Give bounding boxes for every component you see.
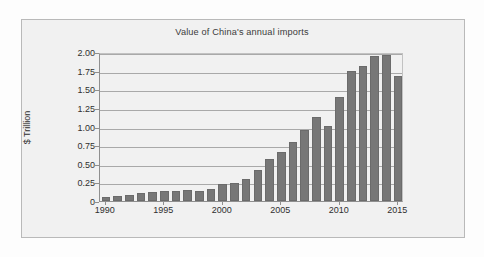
bar-slot [112,52,124,201]
bar-series [100,54,402,201]
bar-slot [264,52,276,201]
bar [242,179,251,201]
bar [324,126,333,201]
chart-figure: Value of China's annual imports $ Trilli… [0,0,484,257]
bar [125,195,134,201]
x-axis-tick-mark [339,201,340,205]
x-axis-tick-label: 2000 [202,205,242,215]
bar [370,56,379,201]
bar [207,189,216,201]
bar-slot [275,52,287,201]
bar-slot [357,52,369,201]
x-axis-tick-label: 2015 [377,205,417,215]
bar-slot [334,52,346,201]
x-axis-tick-mark [105,201,106,205]
bar [113,196,122,201]
bar-slot [229,52,241,201]
x-axis-tick-mark [280,201,281,205]
bar-slot [123,52,135,201]
bar-slot [322,52,334,201]
bar [359,66,368,201]
x-axis-tick-mark [222,201,223,205]
bar [195,191,204,201]
bar-slot [392,52,404,201]
bar [218,184,227,201]
bar-slot [369,52,381,201]
plot-area [99,53,403,202]
bar-slot [205,52,217,201]
bar-slot [182,52,194,201]
bar-slot [147,52,159,201]
bar-slot [381,52,393,201]
bar [183,190,192,201]
bar [300,130,309,201]
bar [254,170,263,201]
bar-slot [299,52,311,201]
x-axis-tick-labels: 199019952000200520102015 [99,205,403,221]
chart-title: Value of China's annual imports [0,27,484,37]
bar-slot [287,52,299,201]
bar-slot [158,52,170,201]
bar [160,191,169,201]
x-axis-tick-label: 1995 [143,205,183,215]
bar [172,191,181,201]
x-axis-tick-mark [163,201,164,205]
bar-slot [194,52,206,201]
bar-slot [310,52,322,201]
bar [277,152,286,201]
bar-slot [252,52,264,201]
bar [347,71,356,201]
y-axis-tick-mark [94,202,99,203]
bar-slot [346,52,358,201]
x-axis-tick-label: 2010 [319,205,359,215]
x-axis-tick-label: 1990 [85,205,125,215]
x-axis-tick-label: 2005 [260,205,300,215]
x-axis-tick-mark [397,201,398,205]
bar [289,142,298,201]
bar [137,193,146,201]
bar-slot [240,52,252,201]
bar [312,117,321,201]
bar [335,97,344,201]
bar-slot [135,52,147,201]
bar [382,55,391,201]
bar [265,159,274,201]
bar [148,192,157,201]
bar-slot [170,52,182,201]
bar-slot [217,52,229,201]
bar [230,183,239,201]
bar [394,76,403,201]
bar-slot [100,52,112,201]
